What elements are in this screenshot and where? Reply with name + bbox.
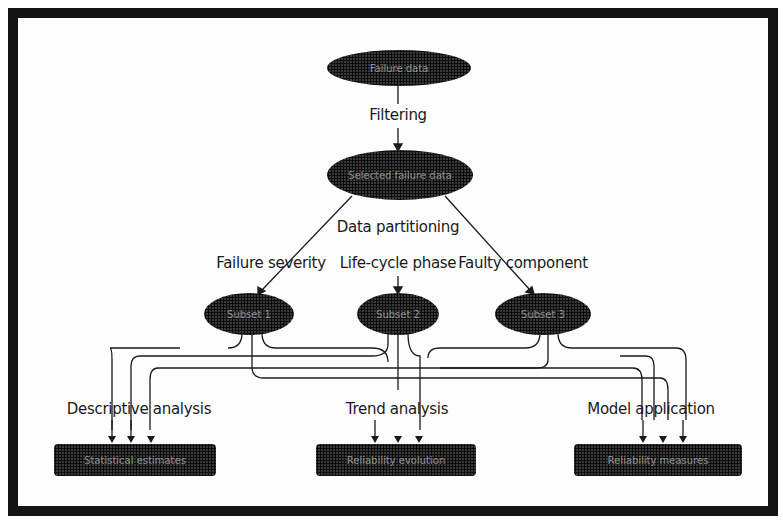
model-application-label: Model application	[587, 400, 714, 418]
reliability-measures-box: Reliability measures	[574, 444, 742, 476]
criterion-life-cycle-phase: Life-cycle phase	[340, 254, 456, 272]
subset-node-phase: Subset 2	[357, 293, 439, 335]
descriptive-analysis-label: Descriptive analysis	[67, 400, 211, 418]
statistical-estimates-box: Statistical estimates	[54, 444, 216, 476]
filtering-label: Filtering	[369, 106, 427, 124]
data-partitioning-label: Data partitioning	[337, 218, 459, 236]
criterion-faulty-component: Faulty component	[458, 254, 588, 272]
subset-node-severity: Subset 1	[204, 293, 294, 335]
subset-node-component: Subset 3	[495, 293, 591, 335]
reliability-evolution-box: Reliability evolution	[316, 444, 476, 476]
trend-analysis-label: Trend analysis	[346, 400, 448, 418]
failure-data-node: Failure data	[327, 50, 471, 86]
selected-data-node: Selected failure data	[327, 150, 473, 200]
criterion-failure-severity: Failure severity	[216, 254, 326, 272]
